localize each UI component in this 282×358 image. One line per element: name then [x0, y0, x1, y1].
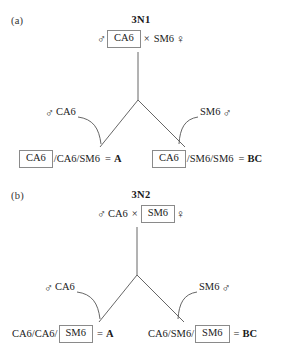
connector-branch-left — [100, 100, 138, 147]
offspring-allele-box: CA6 — [19, 150, 53, 168]
male-symbol-icon: ♂ — [96, 33, 107, 45]
gamete-label-left-text: CA6 — [54, 282, 76, 293]
offspring-genotype-right: CA6/SM6/ SM6 = BC — [147, 325, 257, 343]
male-symbol-icon: ♂ — [96, 208, 107, 220]
female-symbol-icon: ♀ — [175, 208, 186, 220]
equals-sign: = — [235, 153, 245, 164]
gamete-label-left-text: CA6 — [55, 107, 77, 118]
gamete-label-left: ♂ CA6 — [43, 281, 76, 293]
pointer-curve-right — [178, 292, 197, 319]
equals-sign: = — [93, 328, 103, 339]
offspring-genotype-right: CA6 /SM6/SM6 = BC — [152, 150, 262, 168]
offspring-genotype-rest: /SM6/SM6 — [186, 154, 235, 165]
male-symbol-icon: ♂ — [221, 107, 232, 119]
gamete-label-right: SM6 ♂ — [198, 281, 231, 293]
pointer-curve-right — [179, 117, 198, 144]
gamete-label-left: ♂ CA6 — [44, 106, 77, 118]
offspring-genotype-left: CA6/CA6/ SM6 = A — [11, 325, 113, 343]
male-symbol-icon: ♂ — [43, 282, 54, 294]
offspring-allele-box: SM6 — [195, 325, 229, 343]
offspring-allele-box: SM6 — [59, 325, 93, 343]
parent-male-genotype: CA6 — [107, 209, 129, 220]
offspring-class-label: BC — [244, 153, 262, 164]
offspring-genotype-rest: /CA6/SM6 — [53, 154, 101, 165]
offspring-genotype-rest: CA6/CA6/ — [11, 329, 59, 340]
pointer-curve-left — [78, 117, 101, 144]
equals-sign: = — [101, 153, 111, 164]
gamete-label-right-text: SM6 — [199, 107, 221, 118]
offspring-genotype-left: CA6 /CA6/SM6 = A — [19, 150, 121, 168]
panel-3n2: (b) 3N2 ♂ CA6 × SM6 ♀ ♂ CA6 SM6 ♂ CA6/CA… — [0, 179, 282, 358]
pointer-curve-left — [77, 292, 100, 319]
cross-operator-icon: × — [141, 33, 153, 44]
male-symbol-icon: ♂ — [220, 282, 231, 294]
offspring-class-label: BC — [239, 328, 257, 339]
panel-title-3n1: 3N1 — [0, 14, 282, 25]
connector-branch-right — [138, 100, 185, 147]
connector-branch-left — [99, 275, 137, 322]
parent-female-genotype-box: SM6 — [141, 205, 175, 223]
cross-row-3n2: ♂ CA6 × SM6 ♀ — [0, 205, 282, 223]
male-symbol-icon: ♂ — [44, 107, 55, 119]
parent-female-genotype: SM6 — [153, 34, 175, 45]
gamete-label-right-text: SM6 — [198, 282, 220, 293]
panel-3n1: (a) 3N1 ♂ CA6 × SM6 ♀ ♂ CA6 SM6 ♂ CA6 /C… — [0, 0, 282, 179]
offspring-genotype-rest: CA6/SM6/ — [147, 329, 195, 340]
offspring-class-label: A — [103, 328, 114, 339]
connector-branch-right — [137, 275, 184, 322]
offspring-class-label: A — [111, 153, 122, 164]
female-symbol-icon: ♀ — [175, 33, 186, 45]
panel-title-3n2: 3N2 — [0, 189, 282, 200]
equals-sign: = — [230, 328, 240, 339]
offspring-allele-box: CA6 — [152, 150, 186, 168]
cross-row-3n1: ♂ CA6 × SM6 ♀ — [0, 30, 282, 48]
cross-operator-icon: × — [129, 208, 141, 219]
parent-male-genotype-box: CA6 — [107, 30, 141, 48]
gamete-label-right: SM6 ♂ — [199, 106, 232, 118]
